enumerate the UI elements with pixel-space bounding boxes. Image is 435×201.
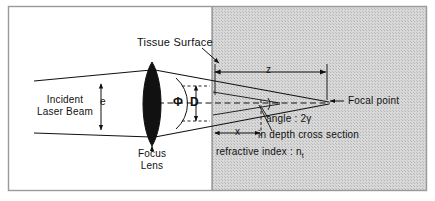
focal-point-label: Focal point [348,95,399,107]
focus-lens-label-line2: Lens [126,160,178,172]
spot-diameter-symbol-label: D [190,96,199,110]
cross-section-note-label: in depth cross section [258,129,359,141]
beam-diameter-symbol-label: e [100,96,106,108]
focus-lens-label-line1: Focus [126,148,178,160]
refractive-index-label: refractive index : nt [216,146,304,160]
refractive-index-text: refractive index : n [216,146,302,157]
distance-symbol-label: x [235,126,240,138]
tissue-surface-label: Tissue Surface [137,36,213,49]
incident-beam-label-line2: Laser Beam [28,106,102,118]
refractive-index-subscript: t [302,152,304,159]
lens-angle-symbol-label: Φ [173,96,183,110]
angle-label: angle : 2γ [266,113,311,125]
figure-container: Tissue Surface Incident Laser Beam e Φ D… [0,0,435,201]
depth-symbol-label: z [266,64,271,76]
incident-beam-label-line1: Incident [34,94,96,106]
